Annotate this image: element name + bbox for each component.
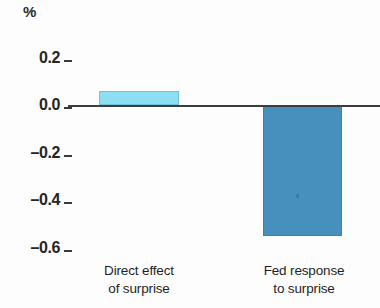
x-axis-label-line1: Fed response xyxy=(249,262,359,280)
bar-chart: % 0.2 0.0 –0.2 –0.4 –0.6 Direct effect o… xyxy=(0,0,380,308)
x-axis-label-line2: to surprise xyxy=(249,280,359,298)
plot-area xyxy=(0,0,380,260)
bar-fed-response-to-surprise xyxy=(263,105,342,236)
bar-direct-effect-of-surprise xyxy=(99,91,179,105)
x-axis-label-line2: of surprise xyxy=(89,280,189,298)
scan-speck xyxy=(296,194,299,198)
zero-axis-line xyxy=(68,105,380,107)
x-axis-label-fed-response-to-surprise: Fed response to surprise xyxy=(249,262,359,298)
x-axis-label-line1: Direct effect xyxy=(89,262,189,280)
x-axis-label-direct-effect-of-surprise: Direct effect of surprise xyxy=(89,262,189,298)
